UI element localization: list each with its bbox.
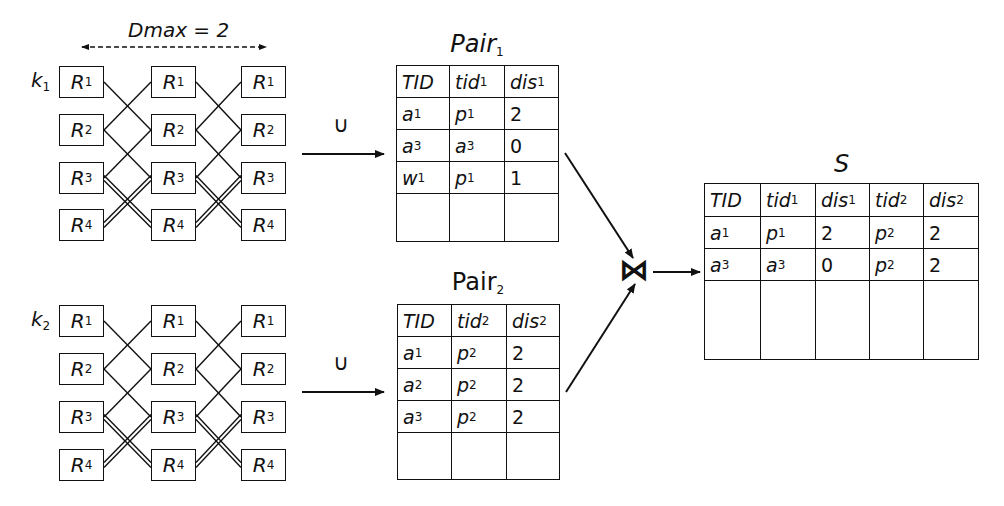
table-cell: p2 [870, 217, 924, 249]
region-letter: R [163, 213, 177, 237]
table-cell: a3 [761, 249, 816, 281]
region-letter: R [253, 309, 267, 333]
result-table: TIDtid1dis1tid2dis2a1p12p22a3a30p22 [704, 183, 979, 360]
region-box: R2 [241, 114, 286, 146]
region-subscript: 2 [267, 123, 275, 137]
table-cell: 0 [505, 130, 558, 162]
table-cell: a3 [398, 401, 452, 433]
table-cell: 2 [507, 337, 559, 369]
region-letter: R [71, 70, 85, 94]
table-cell [397, 194, 450, 241]
region-subscript: 4 [267, 218, 275, 232]
region-subscript: 2 [177, 362, 185, 376]
region-letter: R [71, 213, 85, 237]
table-cell [870, 281, 924, 359]
pair2-to-join-arrow [566, 284, 635, 392]
table-cell: 2 [505, 98, 558, 130]
key-label-k1: k1 [31, 68, 50, 94]
region-box: R2 [151, 353, 196, 385]
region-letter: R [163, 453, 177, 477]
region-box: R4 [151, 209, 196, 241]
region-subscript: 3 [267, 410, 275, 424]
region-letter: R [163, 405, 177, 429]
table-cell: p1 [450, 98, 505, 130]
region-subscript: 4 [267, 458, 275, 472]
region-subscript: 4 [177, 218, 185, 232]
key-label-k2: k2 [31, 307, 50, 333]
table-header-cell: TID [398, 305, 452, 337]
table-header-cell: dis2 [924, 184, 978, 217]
region-subscript: 1 [267, 75, 275, 89]
table-header-cell: TID [705, 184, 761, 217]
table-cell: p2 [452, 369, 507, 401]
pair2-table: TIDtid2dis2a1p22a2p22a3p22 [397, 304, 560, 480]
pair1-table: TIDtid1dis1a1p12a3a30w1p11 [396, 65, 559, 242]
table-cell: a1 [705, 217, 761, 249]
table-cell [761, 281, 816, 359]
pair2-title: Pair2 [397, 268, 559, 297]
region-box: R2 [59, 353, 104, 385]
table-cell [924, 281, 978, 359]
region-letter: R [71, 357, 85, 381]
region-box: R3 [151, 162, 196, 194]
region-box: R4 [241, 449, 286, 481]
table-cell: p1 [761, 217, 816, 249]
region-subscript: 2 [85, 123, 93, 137]
region-letter: R [253, 213, 267, 237]
region-box: R3 [241, 162, 286, 194]
table-cell: a3 [705, 249, 761, 281]
region-box: R2 [59, 114, 104, 146]
region-box: R4 [59, 209, 104, 241]
pair1-title: Pair1 [396, 30, 558, 59]
table-cell: w1 [397, 162, 450, 194]
region-box: R1 [151, 66, 196, 98]
table-cell: a2 [398, 369, 452, 401]
table-cell: 2 [816, 217, 870, 249]
key-letter: k [31, 307, 43, 331]
region-box: R1 [151, 305, 196, 337]
region-letter: R [163, 166, 177, 190]
table-cell: 2 [507, 401, 559, 433]
table-header-cell: dis2 [507, 305, 559, 337]
region-box: R2 [241, 353, 286, 385]
table-cell: a3 [397, 130, 450, 162]
region-subscript: 1 [85, 314, 93, 328]
region-subscript: 1 [177, 314, 185, 328]
region-letter: R [253, 70, 267, 94]
region-box: R1 [59, 305, 104, 337]
table-header-cell: tid2 [870, 184, 924, 217]
region-subscript: 1 [177, 75, 185, 89]
table-cell [450, 194, 505, 241]
union-symbol-2: ∪ [333, 350, 349, 375]
region-letter: R [71, 118, 85, 142]
table-cell [507, 433, 559, 479]
region-letter: R [253, 453, 267, 477]
region-letter: R [71, 309, 85, 333]
pair1-to-join-arrow [565, 153, 633, 258]
region-subscript: 2 [177, 123, 185, 137]
table-cell: p2 [452, 401, 507, 433]
pair2-title-sub: 2 [497, 283, 505, 297]
table-header-cell: TID [397, 66, 450, 98]
region-box: R3 [59, 162, 104, 194]
region-subscript: 4 [85, 218, 93, 232]
region-subscript: 3 [177, 171, 185, 185]
region-subscript: 2 [85, 362, 93, 376]
table-cell [816, 281, 870, 359]
region-letter: R [71, 166, 85, 190]
key-subscript: 2 [43, 319, 51, 333]
table-cell: 2 [507, 369, 559, 401]
region-subscript: 1 [267, 314, 275, 328]
table-cell: p2 [870, 249, 924, 281]
table-cell: p1 [450, 162, 505, 194]
table-cell [452, 433, 507, 479]
region-box: R1 [59, 66, 104, 98]
region-letter: R [163, 118, 177, 142]
region-box: R3 [59, 401, 104, 433]
table-cell [705, 281, 761, 359]
table-cell: 1 [505, 162, 558, 194]
union-symbol-1: ∪ [333, 112, 349, 137]
table-header-cell: dis1 [816, 184, 870, 217]
dmax-label: Dmax = 2 [128, 18, 229, 42]
pair1-title-text: Pair [450, 30, 496, 58]
